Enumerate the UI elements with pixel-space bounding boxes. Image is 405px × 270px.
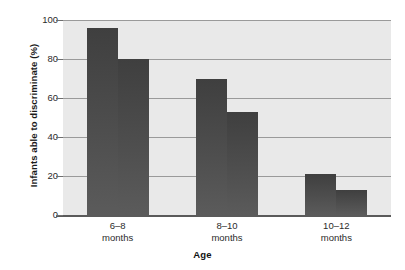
bar xyxy=(87,28,118,215)
x-axis-line xyxy=(56,215,391,217)
bar xyxy=(196,79,227,216)
bar xyxy=(336,190,367,215)
y-tick-mark xyxy=(56,20,63,21)
y-tick-label: 60 xyxy=(18,93,58,103)
x-category-label: 8–10months xyxy=(172,220,282,243)
y-tick-mark xyxy=(56,176,63,177)
y-tick-mark xyxy=(56,215,63,216)
gridline xyxy=(63,20,391,21)
y-tick-mark xyxy=(56,98,63,99)
y-tick-label: 40 xyxy=(18,132,58,142)
bar xyxy=(118,59,149,215)
plot-area xyxy=(63,20,391,215)
y-tick-mark xyxy=(56,59,63,60)
x-category-label: 6–8months xyxy=(63,220,173,243)
y-tick-mark xyxy=(56,137,63,138)
y-tick-label: 20 xyxy=(18,171,58,181)
x-category-label: 10–12months xyxy=(281,220,391,243)
bar-chart-figure: Infants able to discriminate (%) 0204060… xyxy=(0,0,405,270)
x-category-label-line: 6–8 xyxy=(63,220,173,232)
x-axis-title: Age xyxy=(0,249,405,260)
bar xyxy=(305,174,336,215)
y-tick-label: 100 xyxy=(18,15,58,25)
y-tick-label: 80 xyxy=(18,54,58,64)
y-tick-label: 0 xyxy=(18,210,58,220)
x-category-label-line: months xyxy=(172,232,282,244)
bar xyxy=(227,112,258,215)
x-category-label-line: months xyxy=(281,232,391,244)
x-category-label-line: 10–12 xyxy=(281,220,391,232)
x-category-label-line: 8–10 xyxy=(172,220,282,232)
y-axis-tick-labels: 020406080100 xyxy=(12,0,58,270)
x-category-label-line: months xyxy=(63,232,173,244)
